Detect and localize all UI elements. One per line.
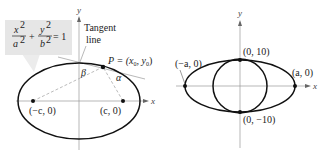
vertex-right bbox=[293, 84, 297, 88]
diagram-canvas: x 2 a 2 + y 2 b 2 = 1 y x Tangent line bbox=[0, 0, 330, 158]
left-y-arrow bbox=[77, 16, 81, 22]
point-bottom bbox=[238, 110, 242, 114]
svg-text:y: y bbox=[76, 5, 81, 15]
svg-text:+: + bbox=[29, 31, 35, 42]
svg-text:y: y bbox=[39, 24, 45, 35]
focus-left bbox=[31, 99, 35, 103]
svg-text:line: line bbox=[86, 34, 102, 45]
svg-text:x: x bbox=[312, 81, 317, 91]
vertex-left bbox=[183, 84, 187, 88]
focal-line-left bbox=[33, 67, 103, 101]
equation-box-pointer bbox=[22, 54, 40, 72]
svg-text:2: 2 bbox=[20, 19, 25, 30]
svg-text:a: a bbox=[13, 38, 18, 49]
tangent-leader bbox=[80, 46, 86, 62]
left-figure: x 2 a 2 + y 2 b 2 = 1 y x Tangent line bbox=[5, 5, 155, 150]
svg-text:(−a, 0): (−a, 0) bbox=[175, 58, 202, 70]
svg-text:2: 2 bbox=[46, 19, 51, 30]
svg-text:(a, 0): (a, 0) bbox=[292, 67, 313, 79]
point-p bbox=[101, 65, 105, 69]
svg-text:α: α bbox=[116, 72, 122, 83]
svg-text:x: x bbox=[13, 24, 19, 35]
svg-text:(0, −10): (0, −10) bbox=[243, 114, 275, 126]
focus-right bbox=[121, 99, 125, 103]
right-x-arrow bbox=[305, 84, 311, 88]
svg-text:(0, 10): (0, 10) bbox=[243, 46, 270, 58]
svg-text:P = (x0, y0): P = (x0, y0) bbox=[107, 55, 152, 67]
svg-text:Tangent: Tangent bbox=[84, 22, 116, 33]
right-figure: y x (−a, 0) (a, 0) (0, 10) (0, −10) bbox=[175, 8, 317, 148]
point-top bbox=[238, 58, 242, 62]
svg-text:2: 2 bbox=[20, 34, 25, 45]
svg-text:x: x bbox=[150, 96, 155, 106]
left-x-arrow bbox=[143, 99, 149, 103]
svg-text:2: 2 bbox=[46, 34, 51, 45]
right-y-arrow bbox=[238, 20, 242, 26]
vertex-left-leader bbox=[180, 70, 185, 84]
svg-text:(−c, 0): (−c, 0) bbox=[29, 105, 56, 117]
svg-text:β: β bbox=[80, 67, 86, 78]
svg-text:= 1: = 1 bbox=[53, 31, 66, 42]
svg-text:b: b bbox=[40, 38, 45, 49]
svg-text:(c, 0): (c, 0) bbox=[100, 105, 121, 117]
svg-text:y: y bbox=[237, 8, 242, 18]
